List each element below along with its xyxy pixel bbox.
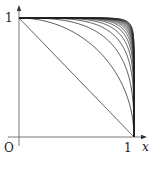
x-axis-label: x bbox=[142, 141, 149, 153]
x-tick-label-1: 1 bbox=[124, 142, 132, 154]
y-axis-arrow-icon bbox=[17, 5, 21, 11]
curve-p-1 bbox=[19, 18, 134, 137]
y-tick-label-1: 1 bbox=[5, 12, 13, 24]
x-axis-arrow-icon bbox=[141, 135, 147, 139]
plot-area bbox=[0, 0, 155, 169]
origin-label: O bbox=[4, 142, 14, 154]
curve-family bbox=[19, 18, 134, 137]
